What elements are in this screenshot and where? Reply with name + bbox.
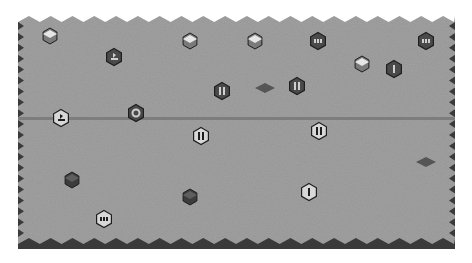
three-bars-symbol-icon [314,39,322,43]
piece-token-dark[interactable] [290,78,305,95]
piece-cube-light[interactable] [355,56,369,72]
board-canvas[interactable] [0,0,472,263]
piece-cube-light[interactable] [248,33,262,49]
board-field [18,16,455,248]
piece-token-dark[interactable] [387,61,402,78]
token-two-bars-icon [215,83,230,100]
token-two-bars-icon [194,128,209,145]
divider-line [18,117,455,120]
piece-token-dark[interactable] [215,83,230,100]
piece-cube-dark[interactable] [183,189,197,205]
token-two-bars-icon [312,123,327,140]
piece-token-light[interactable] [312,123,327,140]
piece-cube-dark[interactable] [65,172,79,188]
piece-token-light[interactable] [194,128,209,145]
three-bars-symbol-icon [422,39,430,43]
piece-token-light[interactable] [54,110,69,127]
piece-cube-light[interactable] [43,28,57,44]
board-surface[interactable] [18,16,455,248]
one-bar-symbol-icon [393,65,395,73]
one-bar-symbol-icon [308,188,310,196]
piece-token-dark[interactable] [129,105,144,122]
piece-token-dark[interactable] [107,49,122,66]
piece-cube-light[interactable] [183,33,197,49]
game-board[interactable] [0,0,472,263]
piece-token-light[interactable] [97,211,112,228]
token-ring-icon [129,105,144,122]
piece-token-dark[interactable] [419,33,434,50]
piece-token-dark[interactable] [311,33,326,50]
piece-token-light[interactable] [302,184,317,201]
three-bars-symbol-icon [100,217,108,221]
token-two-bars-icon [290,78,305,95]
board-divider-line [18,117,455,120]
